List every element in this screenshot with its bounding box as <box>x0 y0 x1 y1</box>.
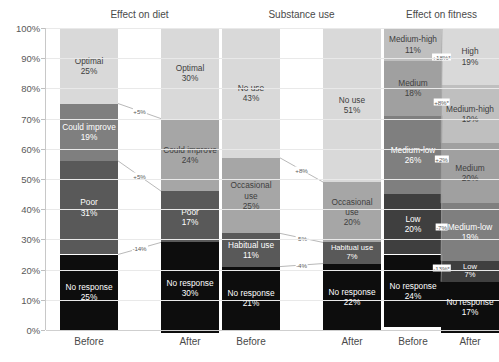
segment-label: Medium-low <box>447 222 494 232</box>
segment-label: Medium <box>397 78 429 88</box>
segment-label: Occasional use <box>323 197 381 217</box>
y-axis-tick <box>41 88 45 89</box>
gridline <box>46 270 499 271</box>
x-axis-label-after: After <box>323 336 381 347</box>
segment-value: 22% <box>344 297 361 307</box>
bar-segment[interactable]: Medium-low26% <box>384 116 442 195</box>
bar-segment[interactable]: No response21% <box>222 267 280 330</box>
segment-value: 7% <box>465 271 476 280</box>
bar-segment[interactable]: No response22% <box>323 264 381 330</box>
segment-value: 18% <box>405 88 422 98</box>
delta-label: -4% <box>295 262 308 269</box>
stacked-bar-chart: 100%90%80%70%60%50%40%30%20%10%0% Optima… <box>0 0 499 362</box>
bar-segment[interactable]: No response17% <box>441 282 499 333</box>
gridline <box>46 300 499 301</box>
segment-value: 25% <box>81 66 98 76</box>
segment-value: 17% <box>462 307 479 317</box>
bar-segment[interactable]: No response25% <box>60 255 118 331</box>
delta-label: +8%* <box>433 98 450 105</box>
segment-value: 11% <box>405 45 421 55</box>
delta-label: +2% <box>434 156 448 163</box>
bar-segment[interactable]: Habitual use7% <box>323 242 381 263</box>
x-axis-label-after: After <box>161 336 219 347</box>
segment-label: No response <box>165 278 214 288</box>
segment-label: No response <box>226 288 275 298</box>
bar-segment[interactable]: Optimal25% <box>60 28 118 104</box>
gridline <box>46 179 499 180</box>
y-axis-tick-label: 30% <box>21 234 40 245</box>
y-axis-tick-label: 50% <box>21 174 40 185</box>
y-axis-tick <box>41 270 45 271</box>
y-axis-tick <box>41 149 45 150</box>
bar-segment[interactable]: Optimal30% <box>161 28 219 119</box>
bar-segment[interactable]: Poor31% <box>60 161 118 255</box>
y-axis-tick-label: 40% <box>21 204 40 215</box>
segment-value: 11% <box>243 250 259 260</box>
y-axis-tick-label: 20% <box>21 264 40 275</box>
segment-label: Low <box>404 214 421 224</box>
bar-segment[interactable]: No use51% <box>323 28 381 182</box>
segment-label: Poor <box>79 197 99 207</box>
segment-label: Optimal <box>175 63 206 73</box>
y-axis-tick <box>41 300 45 301</box>
y-axis-tick <box>41 239 45 240</box>
y-axis: 100%90%80%70%60%50%40%30%20%10%0% <box>0 0 40 362</box>
bar-segment[interactable]: Poor17% <box>161 191 219 242</box>
segment-label: No response <box>327 287 376 297</box>
segment-value: 17% <box>182 217 199 227</box>
segment-label: Could improve <box>61 122 117 132</box>
bar-segment[interactable]: No response30% <box>161 242 219 333</box>
delta-label: +5% <box>132 108 146 115</box>
segment-value: 43% <box>243 93 260 103</box>
bar-segment[interactable]: Medium-low19% <box>441 203 499 260</box>
delta-label: -7% <box>435 224 448 231</box>
segment-label: No response <box>388 281 437 291</box>
bar-segment[interactable]: Medium-high19% <box>441 85 499 142</box>
bar-segment[interactable]: Occasional use25% <box>222 158 280 234</box>
bar-segment[interactable]: Medium20% <box>441 143 499 203</box>
segment-label: Occasional use <box>222 180 280 200</box>
segment-label: Habitual use <box>227 240 275 250</box>
gridline <box>46 149 499 150</box>
segment-value: 30% <box>182 73 199 83</box>
y-axis-tick <box>41 179 45 180</box>
segment-value: 24% <box>182 155 199 165</box>
y-axis-tick <box>41 58 45 59</box>
segment-label: Medium-high <box>388 34 438 44</box>
x-axis-label-before: Before <box>384 336 442 347</box>
segment-label: No use <box>338 95 366 105</box>
y-axis-tick-label: 90% <box>21 53 40 64</box>
axis-baseline <box>46 330 499 331</box>
gridline <box>46 58 499 59</box>
bar-segment[interactable]: Could improve19% <box>60 104 118 161</box>
y-axis-tick-label: 10% <box>21 294 40 305</box>
group-title: Effect on diet <box>60 9 219 20</box>
y-axis-tick <box>41 28 45 29</box>
bar-segment[interactable]: Low20% <box>384 194 442 254</box>
gridline <box>46 28 499 29</box>
gridline <box>46 119 499 120</box>
y-axis-tick-label: 0% <box>26 325 40 336</box>
segment-value: 7% <box>347 253 358 262</box>
gridline <box>46 88 499 89</box>
segment-value: 19% <box>462 232 479 242</box>
segment-label: Medium-high <box>445 104 495 114</box>
segment-value: 26% <box>405 155 422 165</box>
bar-segment[interactable]: Could improve24% <box>161 119 219 191</box>
x-axis-label-before: Before <box>60 336 118 347</box>
y-axis-tick-label: 60% <box>21 143 40 154</box>
bar-segment[interactable]: No use43% <box>222 28 280 158</box>
segment-value: 51% <box>344 105 361 115</box>
gridline <box>46 239 499 240</box>
y-axis-tick <box>41 330 45 331</box>
y-axis-tick-label: 70% <box>21 113 40 124</box>
x-axis-label-after: After <box>441 336 499 347</box>
segment-label: High <box>460 46 479 56</box>
bar-segment[interactable]: Occasional use20% <box>323 182 381 242</box>
y-axis-tick-label: 100% <box>16 23 40 34</box>
y-axis-tick-label: 80% <box>21 83 40 94</box>
delta-label: +8% <box>294 166 308 173</box>
x-axis-label-before: Before <box>222 336 280 347</box>
segment-value: 19% <box>81 132 98 142</box>
segment-value: 30% <box>182 288 199 298</box>
